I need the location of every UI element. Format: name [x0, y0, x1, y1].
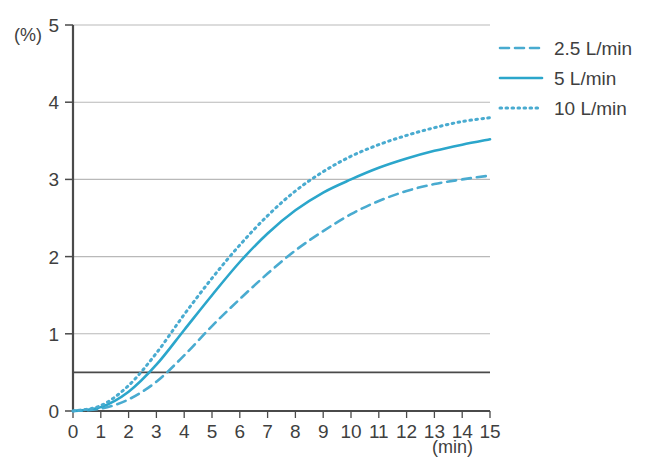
x-tick-label-2: 2 [123, 421, 134, 442]
x-tick-label-0: 0 [68, 421, 79, 442]
x-tick-label-5: 5 [207, 421, 218, 442]
x-axis-unit-label: (min) [432, 437, 473, 457]
x-tick-label-6: 6 [235, 421, 246, 442]
y-tick-label-3: 3 [48, 169, 59, 190]
legend-label-10-l-min: 10 L/min [554, 98, 627, 119]
y-tick-label-1: 1 [48, 324, 59, 345]
y-tick-label-0: 0 [48, 401, 59, 422]
x-tick-label-8: 8 [290, 421, 301, 442]
x-tick-label-9: 9 [318, 421, 329, 442]
y-tick-label-4: 4 [48, 92, 59, 113]
x-tick-label-7: 7 [262, 421, 273, 442]
line-chart: 0123456789101112131415 012345 (%) (min) … [0, 0, 645, 464]
chart-container: 0123456789101112131415 012345 (%) (min) … [0, 0, 645, 464]
x-tick-label-11: 11 [369, 421, 389, 442]
x-tick-label-15: 15 [479, 421, 500, 442]
x-tick-label-1: 1 [96, 421, 107, 442]
x-tick-label-12: 12 [396, 421, 417, 442]
x-tick-label-10: 10 [340, 421, 361, 442]
legend-label-5-l-min: 5 L/min [554, 68, 616, 89]
y-tick-label-5: 5 [48, 15, 59, 36]
x-tick-label-3: 3 [151, 421, 162, 442]
y-tick-label-2: 2 [48, 247, 59, 268]
legend-label-2-5-l-min: 2.5 L/min [554, 38, 632, 59]
x-tick-label-4: 4 [179, 421, 190, 442]
y-axis-unit-label: (%) [14, 25, 42, 45]
